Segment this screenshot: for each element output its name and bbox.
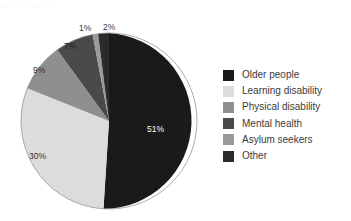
legend-swatch-icon bbox=[223, 102, 234, 113]
legend-label: Asylum seekers bbox=[242, 135, 313, 145]
legend-swatch-icon bbox=[223, 151, 234, 162]
legend-item-learning-disability[interactable]: Learning disability bbox=[223, 83, 349, 99]
cut-off-title-row: ............ bbox=[0, 0, 351, 9]
slice-label-physical-disability: 9% bbox=[33, 66, 45, 75]
legend-label: Learning disability bbox=[242, 86, 322, 96]
legend-item-physical-disability[interactable]: Physical disability bbox=[223, 99, 349, 115]
pie-svg bbox=[16, 26, 206, 219]
legend-swatch-icon bbox=[223, 134, 234, 145]
slice-label-older-people: 51% bbox=[147, 125, 164, 134]
pie-slice-older-people[interactable] bbox=[103, 33, 191, 209]
legend-item-older-people[interactable]: Older people bbox=[223, 67, 349, 83]
legend-label: Mental health bbox=[242, 119, 302, 129]
legend-swatch-icon bbox=[223, 70, 234, 81]
pie-plot-area: 51% 30% 9% 7% 1% 2% bbox=[16, 26, 206, 219]
legend-label: Physical disability bbox=[242, 102, 320, 112]
legend-item-other[interactable]: Other bbox=[223, 148, 349, 164]
legend-swatch-icon bbox=[223, 86, 234, 97]
legend-label: Other bbox=[242, 151, 267, 161]
chart-legend: Older people Learning disability Physica… bbox=[223, 67, 349, 164]
slice-label-learning-disability: 30% bbox=[29, 152, 46, 161]
slice-label-mental-health: 7% bbox=[64, 42, 76, 51]
slice-label-asylum-seekers: 1% bbox=[79, 24, 91, 33]
legend-label: Older people bbox=[242, 70, 299, 80]
legend-item-mental-health[interactable]: Mental health bbox=[223, 116, 349, 132]
pie-chart-figure: ............ 51% 30% 9% 7% 1% 2% bbox=[0, 0, 351, 221]
legend-swatch-icon bbox=[223, 118, 234, 129]
slice-label-other: 2% bbox=[103, 23, 115, 32]
legend-item-asylum-seekers[interactable]: Asylum seekers bbox=[223, 132, 349, 148]
